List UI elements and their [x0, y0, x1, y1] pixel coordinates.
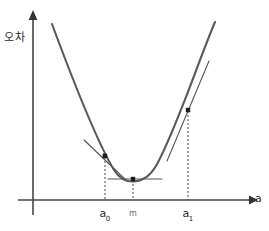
plot-canvas [0, 0, 269, 231]
x-tick-label-a0: a0 [99, 208, 110, 222]
x-tick-label-a1: a1 [182, 208, 193, 222]
x-tick-label-a0-subscript: 0 [106, 215, 110, 223]
x-tick-label-am-base: m [129, 209, 137, 218]
error-curve [52, 22, 215, 182]
marker-dot-am [131, 177, 135, 181]
x-axis-label: a [255, 193, 262, 204]
marker-dot-a1 [186, 108, 190, 112]
x-tick-label-am: m [129, 210, 137, 221]
x-tick-label-a1-subscript: 1 [189, 215, 193, 223]
y-axis-arrowhead [29, 10, 38, 20]
y-axis-label: 오차 [4, 32, 25, 43]
error-vs-parameter-figure: 오차 a a0 m a1 [0, 0, 269, 231]
marker-dot-a0 [103, 154, 108, 159]
